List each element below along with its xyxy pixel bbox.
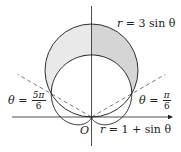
- fraction-numerator: π: [163, 90, 171, 101]
- cardioid-eq-rhs: = 1 + sin θ: [109, 123, 171, 136]
- cardioid-equation-label: r = 1 + sin θ: [100, 124, 171, 135]
- fraction-denominator: 6: [164, 101, 170, 111]
- equals-sign: =: [18, 94, 27, 107]
- fraction-5pi-6: 5π 6: [32, 90, 46, 111]
- circle-equation-label: r = 3 sin θ: [117, 18, 175, 29]
- circle-eq-rhs: = 3 sin θ: [126, 17, 176, 30]
- fraction-denominator: 6: [36, 101, 42, 111]
- ray-label-5pi-6: θ = 5π 6: [8, 90, 46, 111]
- origin-label: O: [80, 125, 89, 136]
- polar-diagram: r = 3 sin θ r = 1 + sin θ O θ = 5π 6 θ =…: [0, 0, 181, 152]
- circle-eq-lhs: r: [117, 17, 122, 30]
- fraction-pi-6: π 6: [163, 90, 171, 111]
- theta-symbol: θ: [139, 94, 146, 107]
- theta-symbol: θ: [8, 94, 15, 107]
- fraction-numerator: 5π: [32, 90, 46, 101]
- cardioid-eq-lhs: r: [100, 123, 105, 136]
- equals-sign: =: [149, 94, 158, 107]
- ray-label-pi-6: θ = π 6: [139, 90, 171, 111]
